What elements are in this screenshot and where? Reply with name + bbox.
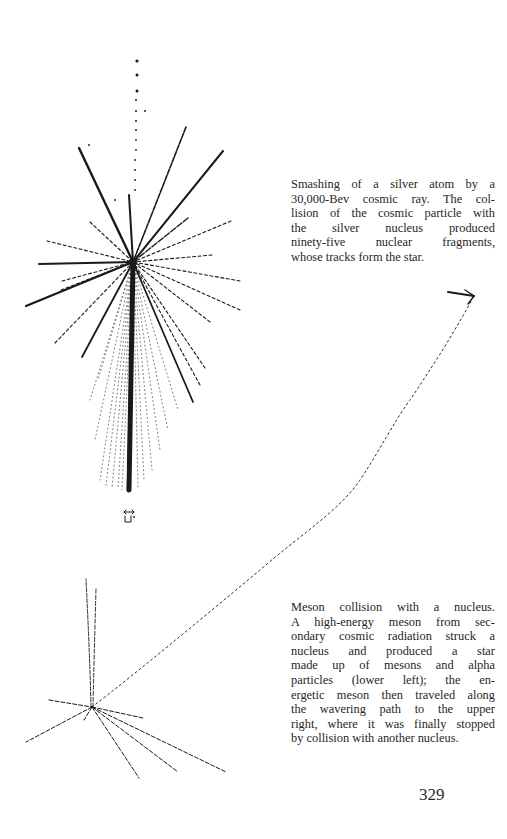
caption-line: A high-energy meson from sec- xyxy=(291,615,495,630)
caption-line: lision of the cosmic particle with xyxy=(291,206,495,221)
caption-line: Meson collision with a nucleus. xyxy=(291,600,495,615)
silver-atom-star-figure xyxy=(26,59,240,522)
caption-line: nucleus and produced a star xyxy=(291,644,495,659)
caption-line: made up of mesons and alpha xyxy=(291,658,495,673)
caption-line: ergetic meson then traveled along xyxy=(291,688,495,703)
caption-line: the silver nucleus produced xyxy=(291,221,495,236)
caption-line: by collision with another nucleus. xyxy=(291,731,495,746)
caption-line: 30,000-Bev cosmic ray. The col- xyxy=(291,192,495,207)
meson-caption: Meson collision with a nucleus. A high-e… xyxy=(291,600,495,746)
caption-line: right, where it was finally stopped xyxy=(291,717,495,732)
caption-line: Smashing of a silver atom by a xyxy=(291,177,495,192)
caption-line: ninety-five nuclear fragments, xyxy=(291,235,495,250)
page-number: 329 xyxy=(419,785,445,805)
star-caption: Smashing of a silver atom by a 30,000-Be… xyxy=(291,177,495,265)
caption-line: ondary cosmic radiation struck a xyxy=(291,629,495,644)
caption-line: the wavering path to the upper xyxy=(291,702,495,717)
caption-line: particles (lower left); the en- xyxy=(291,673,495,688)
book-page: Smashing of a silver atom by a 30,000-Be… xyxy=(0,0,507,839)
caption-line: whose tracks form the star. xyxy=(291,250,495,265)
